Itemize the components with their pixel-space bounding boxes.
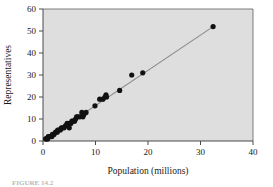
y-axis-ticks: 0102030405060 <box>27 4 43 146</box>
y-tick-label: 10 <box>27 114 37 124</box>
x-tick-label: 40 <box>249 147 259 157</box>
x-tick-label: 20 <box>144 147 154 157</box>
y-tick-label: 60 <box>27 4 37 14</box>
figure-container: 0102030405060 010203040 Population (mill… <box>0 0 273 187</box>
data-point <box>129 72 134 77</box>
data-point <box>83 110 88 115</box>
x-axis-ticks: 010203040 <box>41 141 258 157</box>
y-tick-label: 50 <box>27 26 37 36</box>
x-axis-title: Population (millions) <box>107 166 188 177</box>
y-tick-label: 30 <box>27 70 37 80</box>
scatter-chart: 0102030405060 010203040 Population (mill… <box>0 0 273 187</box>
y-tick-label: 40 <box>27 48 37 58</box>
x-tick-label: 30 <box>196 147 206 157</box>
data-point <box>117 88 122 93</box>
data-point <box>140 70 145 75</box>
x-tick-label: 0 <box>41 147 46 157</box>
y-tick-label: 20 <box>27 92 37 102</box>
data-point <box>92 103 97 108</box>
data-point <box>104 94 109 99</box>
x-tick-label: 10 <box>91 147 101 157</box>
y-axis-title: Representatives <box>3 45 13 105</box>
y-tick-label: 0 <box>32 136 37 146</box>
figure-caption: FIGURE 14.2 <box>12 179 54 187</box>
data-point <box>211 24 216 29</box>
